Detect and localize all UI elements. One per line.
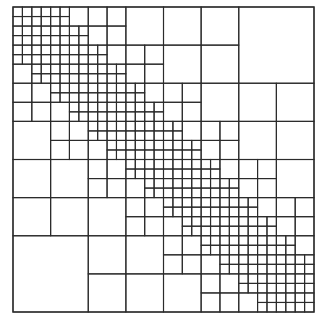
matrix-block: [220, 140, 239, 159]
matrix-block: [22, 55, 31, 65]
matrix-block: [220, 274, 239, 293]
matrix-block: [220, 198, 229, 208]
matrix-block: [69, 55, 78, 65]
matrix-block: [164, 7, 202, 45]
matrix-block: [13, 36, 22, 46]
matrix-block: [69, 7, 88, 26]
matrix-block: [126, 121, 135, 131]
matrix-block: [201, 7, 239, 45]
matrix-block: [173, 150, 182, 160]
matrix-block: [135, 160, 144, 170]
matrix-block: [258, 160, 277, 179]
matrix-block: [192, 169, 201, 179]
matrix-block: [41, 74, 50, 84]
matrix-block: [286, 264, 295, 274]
matrix-block: [51, 102, 70, 121]
matrix-block: [258, 236, 267, 246]
matrix-block: [276, 217, 295, 236]
matrix-block: [258, 255, 267, 265]
matrix-block: [145, 112, 154, 122]
matrix-block: [79, 93, 88, 103]
matrix-block: [32, 36, 41, 46]
matrix-block: [88, 274, 126, 312]
matrix-block: [276, 302, 285, 312]
matrix-block: [145, 188, 154, 198]
matrix-block: [248, 264, 257, 274]
matrix-block: [248, 198, 257, 208]
matrix-block: [220, 179, 229, 189]
matrix-block: [126, 112, 135, 122]
matrix-block: [126, 7, 164, 45]
matrix-block: [154, 102, 163, 112]
matrix-block: [276, 236, 285, 246]
matrix-block: [201, 274, 220, 293]
matrix-block: [182, 236, 201, 255]
matrix-block: [267, 236, 276, 246]
matrix-block: [60, 93, 69, 103]
matrix-block: [51, 83, 60, 93]
matrix-block: [107, 131, 116, 141]
matrix-block: [126, 45, 145, 64]
matrix-block: [267, 283, 276, 293]
matrix-block: [211, 217, 220, 227]
matrix-block: [135, 93, 144, 103]
matrix-block: [154, 160, 163, 170]
matrix-block: [116, 64, 125, 74]
matrix-block: [41, 26, 50, 36]
matrix-block: [211, 245, 220, 255]
matrix-block: [145, 45, 164, 64]
matrix-block: [32, 83, 51, 102]
matrix-block: [239, 245, 248, 255]
matrix-block: [107, 179, 126, 198]
matrix-block: [79, 26, 88, 36]
matrix-block: [182, 102, 201, 121]
matrix-block: [182, 83, 201, 102]
matrix-block: [13, 26, 22, 36]
matrix-block: [154, 140, 163, 150]
matrix-block: [88, 179, 107, 198]
matrix-block: [22, 17, 31, 27]
matrix-block: [192, 179, 201, 189]
matrix-block: [126, 150, 135, 160]
matrix-block: [32, 45, 41, 55]
matrix-block: [220, 245, 229, 255]
matrix-block: [88, 140, 107, 159]
matrix-block: [164, 217, 183, 236]
matrix-block: [41, 55, 50, 65]
matrix-block: [41, 7, 50, 17]
matrix-block: [295, 264, 304, 274]
matrix-block: [220, 121, 239, 140]
hmatrix-partition-diagram: [0, 0, 325, 325]
matrix-block: [98, 121, 107, 131]
matrix-block: [239, 83, 277, 121]
matrix-block: [79, 55, 88, 65]
matrix-block: [116, 74, 125, 84]
matrix-block: [145, 131, 154, 141]
matrix-block: [239, 293, 258, 312]
matrix-block: [60, 45, 69, 55]
matrix-block: [88, 121, 97, 131]
matrix-block: [69, 64, 78, 74]
matrix-block: [154, 179, 163, 189]
matrix-block: [173, 140, 182, 150]
matrix-block: [164, 83, 183, 102]
matrix-block: [154, 150, 163, 160]
matrix-block: [211, 179, 220, 189]
matrix-block: [69, 26, 78, 36]
matrix-block: [258, 264, 267, 274]
matrix-block: [51, 17, 60, 27]
matrix-block: [88, 160, 107, 179]
matrix-block: [116, 93, 125, 103]
matrix-block: [192, 150, 201, 160]
matrix-block: [60, 36, 69, 46]
matrix-block: [305, 255, 314, 265]
matrix-block: [201, 207, 210, 217]
matrix-block: [107, 160, 126, 179]
matrix-block: [107, 112, 116, 122]
matrix-block: [116, 150, 125, 160]
matrix-block: [248, 255, 257, 265]
matrix-block: [201, 198, 210, 208]
matrix-block: [229, 207, 238, 217]
matrix-block: [267, 264, 276, 274]
matrix-block: [69, 45, 78, 55]
